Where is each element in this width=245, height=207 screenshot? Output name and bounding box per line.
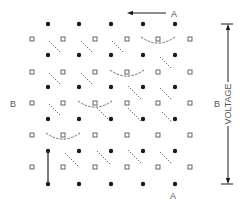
lattice-square	[188, 70, 192, 74]
arrow-down-icon	[226, 178, 230, 184]
lattice-square	[30, 133, 34, 137]
dashed-diagonal	[128, 86, 142, 100]
lattice-square	[30, 37, 34, 41]
lattice-voltage-diagram: A A B B VOLTAGE	[0, 0, 245, 207]
lattice-dot	[46, 22, 50, 26]
voltage-scale-bar: VOLTAGE	[221, 24, 233, 184]
direction-label-b-right: B	[214, 99, 220, 109]
dashed-diagonal	[162, 112, 172, 122]
direction-label-a-top: A	[171, 9, 177, 19]
lattice-square	[93, 101, 97, 105]
top-arrow: A	[127, 9, 177, 19]
dashed-diagonal	[97, 108, 111, 122]
lattice-square	[125, 70, 129, 74]
dashed-diagonal	[65, 153, 79, 167]
dashed-diagonal	[160, 152, 172, 164]
lattice-square	[156, 37, 160, 41]
lattice-square	[93, 37, 97, 41]
lattice-dot	[77, 182, 81, 186]
lattice-square	[93, 70, 97, 74]
lattice-square	[61, 165, 65, 169]
dashed-arc	[46, 133, 80, 139]
dashed-arc	[141, 37, 175, 43]
dashed-arc	[78, 101, 112, 107]
dashed-diagonal	[128, 150, 142, 164]
lattice-square	[93, 133, 97, 137]
lattice-dot	[77, 85, 81, 89]
lattice-square	[125, 101, 129, 105]
lattice-dot	[173, 117, 177, 121]
direction-label-a-bottom: A	[170, 191, 176, 201]
lattice-square	[30, 70, 34, 74]
lattice-dot	[109, 22, 113, 26]
lattice-square	[61, 101, 65, 105]
dashed-diagonal	[160, 57, 172, 69]
dashed-diagonal	[128, 108, 142, 122]
lattice-square	[188, 165, 192, 169]
lattice-dot	[109, 182, 113, 186]
lattice-dot	[46, 117, 50, 121]
dot-lattice	[46, 22, 177, 186]
arrow-left-icon	[127, 11, 133, 15]
dashed-diagonal	[97, 151, 111, 165]
lattice-square	[156, 133, 160, 137]
lattice-dot	[77, 117, 81, 121]
lattice-dot	[109, 149, 113, 153]
dashed-arc	[110, 70, 144, 76]
dashed-diagonal-lines	[49, 41, 172, 167]
lattice-dot	[77, 149, 81, 153]
lattice-dot	[109, 85, 113, 89]
lattice-square	[156, 165, 160, 169]
lattice-dot	[173, 149, 177, 153]
lattice-square	[61, 37, 65, 41]
direction-label-b-left: B	[10, 99, 16, 109]
lattice-square	[30, 101, 34, 105]
lattice-square	[93, 165, 97, 169]
dashed-diagonal	[112, 41, 124, 53]
lattice-dot	[109, 53, 113, 57]
dashed-diagonal	[81, 41, 93, 53]
lattice-dot	[141, 117, 145, 121]
lattice-square	[188, 37, 192, 41]
lattice-dot	[173, 182, 177, 186]
lattice-dot	[77, 53, 81, 57]
lattice-dot	[46, 85, 50, 89]
lattice-square	[125, 133, 129, 137]
voltage-label: VOLTAGE	[223, 83, 233, 124]
arrow-up-icon	[226, 24, 230, 30]
lattice-dot	[77, 22, 81, 26]
lattice-square	[156, 70, 160, 74]
lattice-square	[61, 133, 65, 137]
dashed-diagonal	[49, 104, 61, 116]
lattice-square	[61, 70, 65, 74]
lattice-square	[30, 165, 34, 169]
lattice-square	[125, 37, 129, 41]
lattice-dot	[141, 149, 145, 153]
lattice-dot	[173, 85, 177, 89]
lattice-dot	[141, 22, 145, 26]
dashed-diagonal	[81, 73, 93, 85]
lattice-dot	[141, 53, 145, 57]
lattice-square	[188, 133, 192, 137]
lattice-square	[188, 101, 192, 105]
dashed-diagonal	[160, 88, 172, 100]
lattice-dot	[141, 182, 145, 186]
dashed-diagonal	[49, 41, 61, 53]
lattice-dot	[173, 22, 177, 26]
lattice-dot	[141, 85, 145, 89]
lattice-square	[125, 165, 129, 169]
dashed-diagonal	[49, 73, 61, 85]
lattice-square	[156, 101, 160, 105]
lattice-dot	[173, 53, 177, 57]
lattice-dot	[46, 53, 50, 57]
